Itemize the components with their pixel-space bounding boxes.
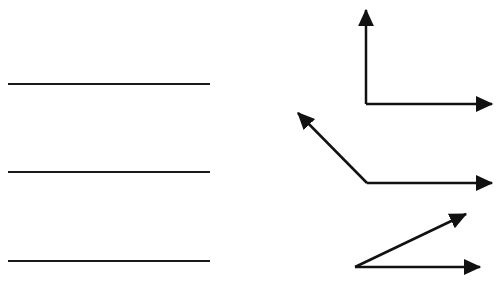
acute-angle <box>355 214 480 267</box>
arrow-icon <box>298 113 367 183</box>
right-angle <box>366 10 492 104</box>
obtuse-angle <box>298 113 492 183</box>
horizontal-lines <box>8 84 210 261</box>
angles <box>298 10 492 267</box>
diagram-canvas <box>0 0 500 284</box>
arrow-icon <box>355 214 466 267</box>
